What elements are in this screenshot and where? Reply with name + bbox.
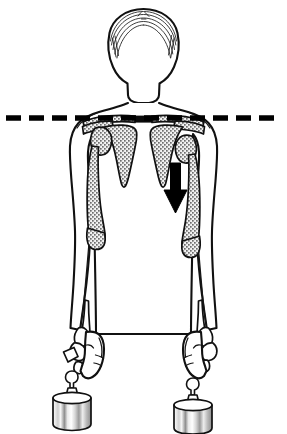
- weight-right-top: [53, 392, 91, 403]
- head-outline: [108, 9, 178, 103]
- illustration-canvas: [0, 0, 287, 434]
- weight-right-knob: [66, 371, 79, 388]
- weight-right: [53, 371, 91, 431]
- weight-left-knob: [187, 378, 200, 395]
- anatomy-illustration: [0, 0, 287, 434]
- weight-left: [174, 378, 212, 434]
- weight-left-top: [174, 399, 212, 410]
